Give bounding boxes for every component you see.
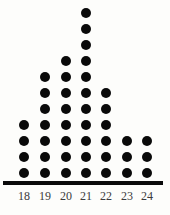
dot — [19, 152, 29, 162]
dot — [81, 136, 91, 146]
dot — [19, 136, 29, 146]
dot — [61, 136, 71, 146]
dot — [81, 168, 91, 178]
x-axis-tick-label-18: 18 — [14, 188, 34, 204]
plot-area — [0, 0, 170, 182]
dot-column-21 — [76, 8, 96, 182]
dot — [19, 120, 29, 130]
dot — [81, 8, 91, 18]
dot — [81, 24, 91, 34]
dot — [40, 120, 50, 130]
x-axis-tick-label-23: 23 — [117, 188, 137, 204]
dot-column-22 — [96, 88, 116, 182]
dot-column-23 — [117, 136, 137, 182]
dot — [81, 56, 91, 66]
x-axis-tick-label-21: 21 — [76, 188, 96, 204]
dot — [61, 120, 71, 130]
dot — [61, 104, 71, 114]
x-axis-tick-label-22: 22 — [96, 188, 116, 204]
dot — [101, 152, 111, 162]
dot — [81, 104, 91, 114]
dot — [61, 56, 71, 66]
dot — [142, 168, 152, 178]
dot-column-18 — [14, 120, 34, 182]
dot — [122, 168, 132, 178]
dot — [40, 88, 50, 98]
dot — [101, 120, 111, 130]
dot — [101, 104, 111, 114]
dot — [61, 168, 71, 178]
dot — [61, 152, 71, 162]
dot — [81, 152, 91, 162]
dot — [122, 152, 132, 162]
dot-column-19 — [35, 72, 55, 182]
x-axis-tick-label-19: 19 — [35, 188, 55, 204]
x-axis-tick-label-20: 20 — [56, 188, 76, 204]
dot — [101, 88, 111, 98]
x-axis-tick-labels: 18 19 20 21 22 23 24 — [0, 188, 170, 210]
x-axis-line — [3, 181, 163, 185]
dot — [40, 72, 50, 82]
dot — [19, 168, 29, 178]
dot — [142, 152, 152, 162]
x-axis-tick-label-24: 24 — [137, 188, 157, 204]
dot — [81, 40, 91, 50]
dot — [40, 168, 50, 178]
dot — [40, 136, 50, 146]
dot — [81, 72, 91, 82]
dot — [40, 152, 50, 162]
dot-plot-chart: 18 19 20 21 22 23 24 — [0, 0, 170, 215]
dot — [142, 136, 152, 146]
dot — [122, 136, 132, 146]
dot — [81, 88, 91, 98]
dot — [101, 136, 111, 146]
dot-column-24 — [137, 136, 157, 182]
dot — [81, 120, 91, 130]
dot — [40, 104, 50, 114]
dot — [61, 88, 71, 98]
dot — [61, 72, 71, 82]
dot — [101, 168, 111, 178]
dot-column-20 — [56, 56, 76, 182]
